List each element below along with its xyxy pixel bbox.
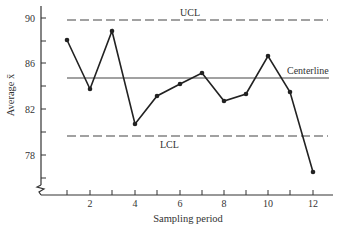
x-tick-label-6: 6 [178,198,183,209]
data-point [88,87,93,92]
data-point [155,94,160,99]
data-point [178,82,183,87]
x-tick-label-12: 12 [308,198,318,209]
axis-break-icon [37,185,44,195]
data-point [200,71,205,76]
y-tick-label-82: 82 [25,104,35,115]
data-point [110,29,115,34]
x-ticks [67,190,313,195]
data-point [65,38,70,43]
x-tick-label-8: 8 [222,198,227,209]
ucl-label: UCL [180,7,200,18]
data-point [244,92,249,97]
y-ticks [41,18,46,178]
control-chart: 90 86 82 78 2 4 6 8 10 12 Sampling perio… [0,0,348,230]
y-tick-label-78: 78 [25,150,35,161]
data-point [222,99,227,104]
y-axis-label: Average x̄ [5,73,16,116]
centerline-label: Centerline [287,65,329,76]
data-points [65,29,316,175]
data-point [288,90,293,95]
x-tick-label-10: 10 [263,198,273,209]
data-point [311,170,316,175]
lcl-label: LCL [160,139,179,150]
data-point [266,54,271,59]
sample-average-line [67,31,313,172]
x-tick-label-4: 4 [133,198,138,209]
y-tick-label-86: 86 [25,58,35,69]
y-tick-label-90: 90 [25,13,35,24]
data-point [133,122,138,127]
x-axis-label: Sampling period [153,213,223,224]
x-tick-label-2: 2 [88,198,93,209]
